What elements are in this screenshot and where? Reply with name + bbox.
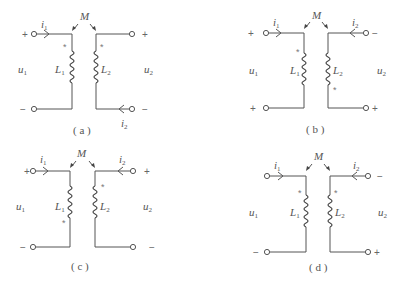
polarity-sign: +: [142, 29, 148, 40]
inductor-L1-label: L1: [54, 63, 65, 77]
inductor-L1-coil: [70, 51, 74, 83]
inductor-L2-label: L2: [332, 64, 343, 78]
terminal-right-top: [129, 31, 134, 36]
terminal-left-bottom: [264, 249, 269, 254]
voltage-u1-label: u1: [16, 200, 26, 214]
voltage-u2-label: u2: [143, 200, 153, 214]
panel-caption: ( b ): [306, 123, 325, 136]
mutual-inductance-label: M: [313, 150, 324, 162]
current-i2-label: i2: [352, 16, 359, 30]
inductor-L1-label: L1: [289, 64, 300, 78]
polarity-dot-L1: *: [63, 42, 67, 52]
voltage-u2-label: u2: [144, 63, 154, 77]
terminal-right-bottom: [130, 244, 135, 249]
current-i1-label: i1: [273, 16, 280, 30]
voltage-u2-label: u2: [377, 64, 387, 78]
panel-c: M i1 i2 L1 L2 u1 u2 + − + − * * ( c ): [16, 147, 155, 273]
polarity-sign: +: [372, 103, 378, 114]
terminal-right-top: [130, 168, 135, 173]
terminal-right-top: [365, 173, 370, 178]
panel-d: M i1 i2 L1 L2 u1 u2 − − + * * ( d ): [249, 150, 388, 274]
inductor-L2-coil: [93, 186, 97, 218]
polarity-sign: −: [377, 171, 383, 182]
inductor-L2-label: L2: [99, 200, 110, 214]
current-i2-label: i2: [353, 159, 360, 173]
polarity-sign: +: [374, 247, 380, 258]
current-i1-label: i1: [274, 159, 281, 173]
terminal-right-bottom: [365, 249, 370, 254]
polarity-sign: −: [372, 28, 378, 39]
inductor-L1-coil: [302, 53, 306, 85]
polarity-sign: −: [20, 104, 26, 115]
mutual-inductance-label: M: [311, 9, 322, 21]
inductor-L2-label: L2: [334, 206, 345, 220]
polarity-dot-L2: *: [101, 182, 105, 192]
polarity-dot-L1: *: [296, 47, 300, 57]
terminal-left-bottom: [263, 105, 268, 110]
terminal-right-bottom: [363, 105, 368, 110]
polarity-sign: −: [149, 242, 155, 253]
terminal-left-top: [30, 168, 35, 173]
polarity-dot-L2: *: [334, 188, 338, 198]
current-i2-label: i2: [119, 153, 126, 167]
polarity-sign: +: [250, 103, 256, 114]
polarity-dot-L2: *: [100, 42, 104, 52]
inductor-L2-coil: [326, 53, 330, 85]
inductor-L1-coil: [68, 186, 72, 218]
voltage-u1-label: u1: [249, 64, 259, 78]
voltage-u1-label: u1: [249, 206, 259, 220]
panel-caption: ( d ): [309, 261, 328, 274]
current-i2-label: i2: [121, 117, 128, 131]
mutual-inductance-label: M: [76, 147, 87, 159]
coupled-inductor-figure: M i1 i2 L1 L2 u1 u2 + − + − * * ( a ): [0, 0, 398, 288]
inductor-L1-label: L1: [289, 206, 300, 220]
polarity-dot-L1: *: [298, 188, 302, 198]
polarity-dot-L1: *: [62, 218, 66, 228]
terminal-right-bottom: [129, 106, 134, 111]
terminal-left-bottom: [31, 106, 36, 111]
terminal-left-top: [263, 30, 268, 35]
voltage-u1-label: u1: [18, 63, 28, 77]
inductor-L1-label: L1: [54, 200, 65, 214]
polarity-sign: +: [22, 29, 28, 40]
panel-caption: ( a ): [73, 124, 91, 137]
inductor-L2-label: L2: [100, 63, 111, 77]
polarity-sign: +: [144, 166, 150, 177]
mutual-inductance-label: M: [79, 10, 90, 22]
polarity-sign: +: [248, 28, 254, 39]
polarity-sign: +: [24, 166, 30, 177]
inductor-L2-coil: [328, 195, 332, 227]
current-i1-label: i1: [41, 18, 48, 32]
terminal-left-top: [264, 173, 269, 178]
terminal-right-top: [363, 30, 368, 35]
panel-b: M i1 i2 L1 L2 u1 u2 + + − + * * ( b ): [248, 9, 387, 136]
polarity-dot-L2: *: [333, 85, 337, 95]
polarity-sign: −: [142, 104, 148, 115]
inductor-L1-coil: [304, 195, 308, 227]
polarity-sign: −: [20, 242, 26, 253]
inductor-L2-coil: [94, 51, 98, 83]
panel-a: M i1 i2 L1 L2 u1 u2 + − + − * * ( a ): [18, 10, 154, 137]
polarity-sign: −: [253, 247, 259, 258]
terminal-left-bottom: [30, 244, 35, 249]
terminal-left-top: [31, 31, 36, 36]
current-i1-label: i1: [40, 153, 47, 167]
voltage-u2-label: u2: [378, 206, 388, 220]
panel-caption: ( c ): [71, 260, 89, 273]
